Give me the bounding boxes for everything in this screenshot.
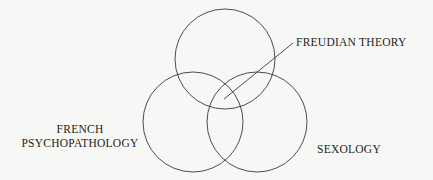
- venn-label-french-line-2: PSYCHOPATHOLOGY: [4, 137, 156, 151]
- venn-label-freudian-theory: FREUDIAN THEORY: [296, 36, 407, 50]
- venn-circle-freudian-theory: [175, 9, 275, 109]
- leader-line-freudian-theory: [224, 43, 293, 99]
- venn-circle-french-psychopathology: [143, 72, 243, 172]
- venn-label-french-line-1: FRENCH: [57, 123, 104, 135]
- venn-label-sexology: SEXOLOGY: [317, 143, 381, 157]
- venn-circle-sexology: [207, 72, 307, 172]
- venn-diagram: FREUDIAN THEORY FRENCHPSYCHOPATHOLOGY SE…: [0, 0, 433, 180]
- venn-label-french-psychopathology: FRENCHPSYCHOPATHOLOGY: [4, 123, 156, 150]
